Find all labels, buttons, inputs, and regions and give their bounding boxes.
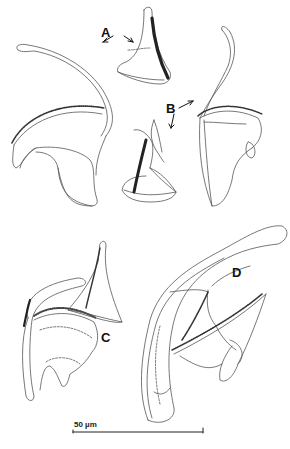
panel-d-anchor-drawing bbox=[141, 226, 287, 423]
panel-label-a: A bbox=[101, 26, 110, 39]
scale-bar-label: 50 µm bbox=[74, 420, 97, 429]
panel-c-anchor-drawing bbox=[23, 278, 98, 401]
panel-a-bar-drawing bbox=[117, 7, 170, 84]
figure-canvas: A B C D 50 µm bbox=[0, 0, 290, 449]
panel-b-bar-drawing bbox=[122, 120, 176, 202]
panel-a-anchor-drawing bbox=[12, 44, 112, 206]
panel-label-c: C bbox=[101, 331, 110, 344]
panel-label-b: B bbox=[166, 102, 175, 115]
line-drawing bbox=[0, 0, 290, 449]
panel-b-anchor-drawing bbox=[198, 26, 262, 206]
panel-label-d: D bbox=[232, 266, 241, 279]
